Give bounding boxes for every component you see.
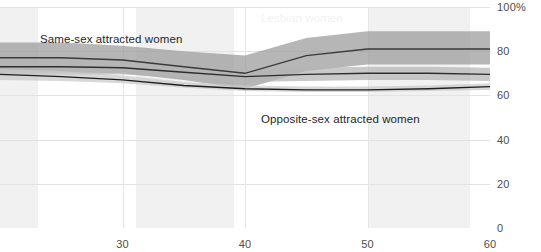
y-axis-tick-80: 80 <box>497 45 510 57</box>
y-axis-tick-40: 40 <box>497 134 510 146</box>
chart-root: 020406080100% 30405060 Lesbian womenSame… <box>0 0 541 252</box>
y-axis-tick-100: 100% <box>497 1 526 13</box>
y-axis: 020406080100% <box>497 0 541 252</box>
x-axis-tick-30: 30 <box>116 238 129 250</box>
annotation-label-1: Same-sex attracted women <box>40 33 182 45</box>
annotation-label-2: Opposite-sex attracted women <box>261 113 420 125</box>
x-axis: 30405060 <box>0 228 490 252</box>
x-axis-tick-50: 50 <box>361 238 374 250</box>
y-axis-tick-20: 20 <box>497 178 510 190</box>
x-axis-tick-60: 60 <box>484 238 497 250</box>
chart-title <box>0 0 541 3</box>
annotation-label-0: Lesbian women <box>261 12 343 24</box>
y-axis-tick-0: 0 <box>497 222 503 234</box>
x-axis-tick-40: 40 <box>239 238 252 250</box>
y-axis-tick-60: 60 <box>497 89 510 101</box>
